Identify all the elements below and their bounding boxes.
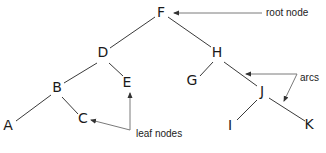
arcs-arrow-icon	[284, 74, 297, 101]
edge-j-i	[237, 100, 257, 120]
tree-diagram: FDHBEGJACIK root nodearcsleaf nodes	[0, 0, 326, 153]
edge-h-g	[200, 62, 213, 76]
node-d: D	[98, 44, 109, 60]
node-f: F	[157, 4, 165, 20]
leaf-nodes-arrow-icon	[91, 120, 130, 130]
node-b: B	[52, 79, 62, 95]
node-h: H	[212, 44, 223, 60]
edge-d-b	[64, 63, 97, 83]
leaf-nodes-label: leaf nodes	[136, 128, 182, 139]
edge-j-k	[269, 98, 305, 121]
node-j: J	[259, 83, 264, 99]
node-k: K	[304, 116, 314, 132]
tree-nodes: FDHBEGJACIK	[3, 4, 314, 133]
node-i: I	[228, 117, 232, 133]
tree-edges	[16, 17, 305, 121]
node-c: C	[78, 110, 88, 126]
edge-f-h	[168, 17, 211, 47]
root-node-label: root node	[266, 7, 309, 18]
edge-f-d	[110, 17, 155, 48]
arcs-label: arcs	[300, 72, 319, 83]
edge-d-e	[109, 63, 123, 76]
node-g: G	[187, 72, 198, 88]
edge-b-a	[16, 95, 51, 121]
node-a: A	[3, 117, 13, 133]
node-e: E	[123, 74, 132, 90]
edge-b-c	[62, 97, 78, 114]
